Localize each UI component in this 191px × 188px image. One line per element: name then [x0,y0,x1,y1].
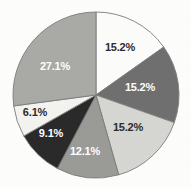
pie-slice-label-2: 15.2% [125,81,156,93]
pie-slice-label-1: 15.2% [105,41,136,53]
pie-slice-label-4: 12.1% [70,145,101,157]
pie-chart-canvas: 15.2%15.2%15.2%12.1%9.1%6.1%27.1% [0,0,191,188]
pie-chart: 15.2%15.2%15.2%12.1%9.1%6.1%27.1% [0,0,191,188]
pie-slice-label-7: 27.1% [40,60,71,72]
pie-slice-label-5: 9.1% [39,127,64,139]
pie-slice-label-6: 6.1% [23,106,48,118]
pie-slice-label-3: 15.2% [113,121,144,133]
